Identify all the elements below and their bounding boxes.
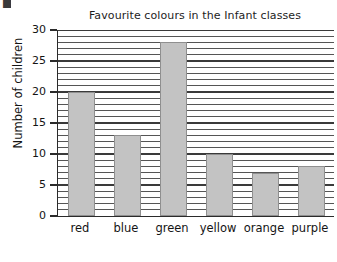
y-axis-tick-label: 5 bbox=[20, 180, 46, 190]
gridline bbox=[58, 178, 334, 179]
y-axis-tick bbox=[50, 29, 57, 30]
gridline bbox=[58, 166, 334, 167]
y-axis-tick-label: 25 bbox=[20, 56, 46, 66]
bar-green bbox=[160, 42, 187, 216]
gridline bbox=[58, 116, 334, 117]
bar-orange bbox=[252, 173, 279, 216]
y-axis-tick bbox=[50, 184, 57, 185]
x-axis-tick-label-yellow: yellow bbox=[195, 221, 241, 235]
gridline bbox=[58, 73, 334, 74]
gridline bbox=[58, 172, 334, 173]
gridline bbox=[58, 135, 334, 136]
y-axis-tick-label: 0 bbox=[20, 211, 46, 221]
gridline bbox=[58, 98, 334, 99]
gridline bbox=[58, 60, 334, 61]
y-axis-tick-label: 20 bbox=[20, 87, 46, 97]
x-axis-tick-label-red: red bbox=[57, 221, 103, 235]
y-axis-tick bbox=[50, 215, 57, 216]
bar-red bbox=[68, 92, 95, 216]
x-axis-tick-label-green: green bbox=[149, 221, 195, 235]
gridline bbox=[58, 42, 334, 43]
y-axis-tick-label: 10 bbox=[20, 149, 46, 159]
gridline bbox=[58, 91, 334, 92]
bar-yellow bbox=[206, 154, 233, 216]
y-axis-tick-label: 15 bbox=[20, 118, 46, 128]
bar-blue bbox=[114, 135, 141, 216]
scan-artifact-icon: ■ bbox=[2, 0, 11, 8]
gridline bbox=[58, 141, 334, 142]
gridline bbox=[58, 48, 334, 49]
y-axis-tick bbox=[50, 91, 57, 92]
gridline bbox=[58, 191, 334, 192]
gridline bbox=[58, 30, 334, 31]
gridline bbox=[58, 147, 334, 148]
y-axis-tick bbox=[50, 122, 57, 123]
gridline bbox=[58, 104, 334, 105]
gridline bbox=[58, 184, 334, 185]
y-axis-tick-label: 30 bbox=[20, 25, 46, 35]
y-axis-tick bbox=[50, 60, 57, 61]
plot-inner bbox=[58, 30, 334, 216]
gridline bbox=[58, 160, 334, 161]
gridline bbox=[58, 197, 334, 198]
gridline bbox=[58, 209, 334, 210]
x-axis-tick-label-orange: orange bbox=[241, 221, 287, 235]
gridline bbox=[58, 203, 334, 204]
bar-purple bbox=[298, 166, 325, 216]
bar-chart: ■ Favourite colours in the Infant classe… bbox=[0, 0, 337, 262]
x-axis-tick-label-purple: purple bbox=[287, 221, 333, 235]
gridline bbox=[58, 67, 334, 68]
gridline bbox=[58, 122, 334, 123]
gridline bbox=[58, 153, 334, 154]
gridline bbox=[58, 129, 334, 130]
gridline bbox=[58, 79, 334, 80]
chart-title: Favourite colours in the Infant classes bbox=[56, 9, 334, 22]
x-axis-tick-label-blue: blue bbox=[103, 221, 149, 235]
gridline bbox=[58, 54, 334, 55]
gridline bbox=[58, 110, 334, 111]
gridline bbox=[58, 36, 334, 37]
gridline bbox=[58, 85, 334, 86]
y-axis-tick bbox=[50, 153, 57, 154]
plot-area bbox=[57, 30, 334, 217]
